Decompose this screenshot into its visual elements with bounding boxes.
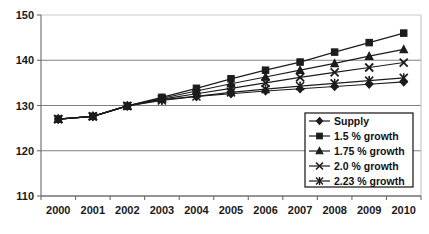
data-point-marker-square [401, 30, 407, 36]
x-tick-label: 2007 [288, 204, 312, 216]
data-series-group [54, 30, 407, 124]
chart-canvas: 110120130140150 200020012002200320042005… [0, 0, 429, 234]
x-tick-label: 2000 [46, 204, 70, 216]
legend-item-label: 1.75 % growth [334, 145, 405, 157]
x-tick-label: 2009 [357, 204, 381, 216]
chart-legend: Supply1.5 % growth1.75 % growth2.0 % gro… [305, 113, 413, 187]
x-tick-label: 2001 [81, 204, 105, 216]
y-axis-tick-labels: 110120130140150 [16, 9, 34, 202]
y-tick-label: 110 [16, 190, 34, 202]
line-chart: 110120130140150 200020012002200320042005… [0, 0, 429, 234]
x-tick-label: 2003 [150, 204, 174, 216]
x-tick-label: 2004 [184, 204, 209, 216]
series-1 [55, 30, 407, 122]
series-2 [54, 45, 407, 122]
legend-item-label: Supply [334, 115, 369, 127]
x-axis-tick-labels: 2000200120022003200420052006200720082009… [46, 204, 416, 216]
data-point-marker-square [317, 133, 323, 139]
legend-item-label: 2.0 % growth [334, 160, 399, 172]
y-tick-label: 130 [16, 100, 34, 112]
x-tick-label: 2005 [219, 204, 243, 216]
data-point-marker-triangle [400, 45, 408, 52]
data-point-marker-square [366, 39, 372, 45]
legend-item-label: 1.5 % growth [334, 130, 399, 142]
x-tick-label: 2010 [391, 204, 415, 216]
y-tick-label: 140 [16, 54, 34, 66]
data-point-marker-square [297, 59, 303, 65]
x-tick-label: 2002 [115, 204, 139, 216]
data-point-marker-square [331, 49, 337, 55]
y-tick-label: 150 [16, 9, 34, 21]
y-tick-label: 120 [16, 145, 34, 157]
legend-item-label: 2.23 % growth [334, 175, 405, 187]
x-tick-label: 2008 [322, 204, 346, 216]
x-tick-label: 2006 [253, 204, 277, 216]
